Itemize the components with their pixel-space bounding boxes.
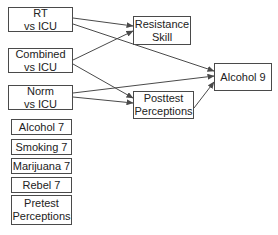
arrow-combined-to-posttest — [73, 64, 133, 98]
node-label: RT vs ICU — [24, 7, 57, 33]
node-marijuana7: Marijuana 7 — [11, 158, 72, 174]
node-combined: Combined vs ICU — [8, 48, 73, 73]
arrow-rt-to-resistance — [73, 18, 133, 26]
node-label: Resistance Skill — [135, 18, 189, 44]
node-rebel7: Rebel 7 — [11, 177, 72, 193]
node-alcohol9: Alcohol 9 — [214, 63, 272, 91]
node-label: Alcohol 7 — [19, 121, 64, 134]
node-norm: Norm vs ICU — [8, 85, 73, 110]
arrow-combined-to-resistance — [73, 31, 133, 60]
node-label: Combined vs ICU — [15, 48, 65, 74]
node-smoking7: Smoking 7 — [11, 139, 72, 155]
node-resistance: Resistance Skill — [133, 16, 191, 45]
node-label: Alcohol 9 — [220, 71, 265, 84]
node-pretest: Pretest Perceptions — [11, 195, 72, 225]
node-rt: RT vs ICU — [8, 7, 73, 32]
node-label: Pretest Perceptions — [12, 197, 70, 223]
node-posttest: Posttest Perceptions — [133, 91, 194, 119]
arrow-norm-to-posttest — [73, 97, 133, 103]
path-diagram: RT vs ICUCombined vs ICUNorm vs ICUAlcoh… — [0, 0, 278, 235]
arrow-posttest-to-alcohol9 — [194, 82, 214, 108]
node-label: Norm vs ICU — [24, 85, 57, 111]
node-alcohol7: Alcohol 7 — [11, 119, 72, 135]
node-label: Smoking 7 — [16, 141, 68, 154]
node-label: Posttest Perceptions — [134, 92, 192, 118]
node-label: Rebel 7 — [23, 179, 61, 192]
node-label: Marijuana 7 — [13, 160, 70, 173]
